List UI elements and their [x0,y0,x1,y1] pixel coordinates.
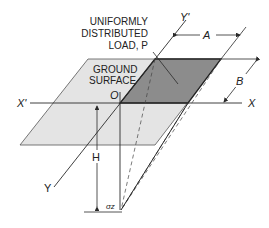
load-label-line2: DISTRIBUTED [81,28,148,39]
dim-a-label: A [202,29,210,41]
load-label-line3: LOAD, P [109,40,149,51]
origin-label: O [110,89,119,101]
dim-b-label: B [236,75,243,87]
stress-distribution-diagram: A B H UNIFORMLY DISTRIBUTED LOAD, P GROU… [0,0,269,228]
x-prime-label: X' [16,97,27,109]
stress-label: σz [106,202,115,211]
a-extension-line [221,27,246,59]
depth-h-label: H [92,151,100,163]
surface-label-line1: GROUND [93,64,137,75]
y-axis-label: Y [44,182,52,194]
load-label-line1: UNIFORMLY [90,16,148,27]
y-prime-label: Y' [180,11,190,23]
x-axis-label: X [247,97,256,109]
surface-label-line2: SURFACE [89,75,137,86]
